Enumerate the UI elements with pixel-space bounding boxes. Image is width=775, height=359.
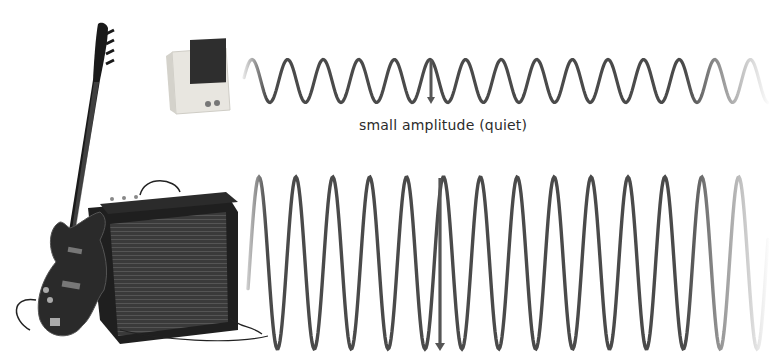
large-amplitude-wave [248, 177, 768, 349]
large-amplitude-arrow [435, 178, 445, 351]
small-amplitude-caption: small amplitude (quiet) [359, 117, 527, 133]
small-amplitude-wave [244, 60, 768, 103]
waves-layer [0, 0, 775, 359]
